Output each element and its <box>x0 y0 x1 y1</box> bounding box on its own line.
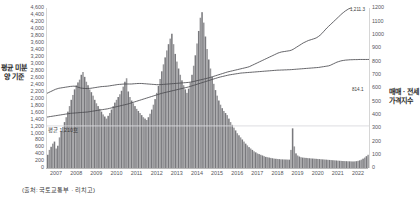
bar <box>305 158 307 168</box>
right-axis-title: 매매 · 전세 가격지수 <box>389 88 420 105</box>
bar <box>60 131 62 168</box>
bar <box>149 114 151 168</box>
bar <box>231 125 233 168</box>
bar <box>275 159 277 168</box>
bar <box>67 112 69 168</box>
bar <box>102 114 104 168</box>
bar <box>112 106 114 168</box>
left-axis-tick: 4,400 <box>31 12 45 17</box>
bar <box>188 89 190 168</box>
x-axis-tick: 2012 <box>151 170 163 177</box>
left-axis-tick: 800 <box>35 137 44 142</box>
bar <box>237 133 239 168</box>
bar <box>309 158 311 168</box>
bar <box>342 161 344 168</box>
bar <box>86 82 88 168</box>
bar <box>183 85 185 168</box>
right-axis-tick: 300 <box>372 125 381 130</box>
bar <box>243 142 245 168</box>
left-axis-tick: 4,200 <box>31 19 45 24</box>
bar <box>200 18 202 168</box>
left-axis-tick: 2,000 <box>31 96 45 101</box>
bar <box>168 44 170 168</box>
bar <box>124 82 126 168</box>
bar <box>97 106 99 168</box>
right-axis-tick: 100 <box>372 152 381 157</box>
bar <box>89 89 91 168</box>
x-axis-ticks: 2007200820092010201120122013201420152016… <box>46 170 368 182</box>
left-axis-tick: 2,800 <box>31 68 45 73</box>
bar <box>174 54 176 168</box>
right-axis-tick: 800 <box>372 59 381 64</box>
bar <box>367 155 369 168</box>
x-axis-tick: 2008 <box>70 170 82 177</box>
bar <box>255 152 257 168</box>
bar <box>225 113 227 168</box>
bar <box>317 159 319 168</box>
left-axis-tick: 200 <box>35 158 44 163</box>
bar <box>233 128 235 168</box>
left-axis-tick: 3,400 <box>31 47 45 52</box>
left-axis-tick: 2,600 <box>31 75 45 80</box>
left-axis-tick: 600 <box>35 144 44 149</box>
right-axis-tick: 600 <box>372 85 381 90</box>
bar <box>330 160 332 168</box>
bar <box>272 158 274 168</box>
bar <box>122 87 124 168</box>
bar <box>146 120 148 168</box>
bar <box>252 150 254 168</box>
right-axis-tick: 1100 <box>372 19 384 24</box>
right-axis-tick: 900 <box>372 45 381 50</box>
x-axis-tick: 2014 <box>191 170 203 177</box>
x-axis-tick: 2009 <box>90 170 102 177</box>
bar <box>220 105 222 168</box>
bar <box>153 105 155 168</box>
bar <box>210 69 212 168</box>
bar <box>156 93 158 168</box>
bar <box>253 151 255 168</box>
x-axis-tick: 2013 <box>171 170 183 177</box>
right-axis-tick: 500 <box>372 99 381 104</box>
bar <box>158 86 160 168</box>
bar <box>285 160 287 168</box>
bar <box>287 160 289 168</box>
bar <box>337 161 339 168</box>
bar <box>186 93 188 168</box>
x-axis-tick: 2019 <box>292 170 304 177</box>
bar <box>312 159 314 168</box>
bar <box>262 155 264 168</box>
bar <box>324 160 326 168</box>
x-axis-tick: 2022 <box>352 170 364 177</box>
left-axis-tick: 0 <box>41 165 44 170</box>
bar <box>52 144 54 168</box>
bar <box>278 159 280 168</box>
bar <box>250 149 252 168</box>
bar <box>87 85 89 168</box>
bar <box>334 160 336 168</box>
bar <box>54 142 56 168</box>
bar <box>185 89 187 168</box>
bar <box>257 153 259 168</box>
bar <box>164 57 166 168</box>
jeonse-index-endpoint-label: 814.1 <box>352 87 364 92</box>
bar <box>141 115 143 168</box>
bar <box>267 157 269 168</box>
bar <box>366 156 368 168</box>
left-axis-tick: 1,800 <box>31 103 45 108</box>
chart-canvas <box>47 8 369 168</box>
bar <box>314 159 316 168</box>
left-axis-tick: 2,400 <box>31 82 45 87</box>
bar <box>351 161 353 168</box>
bar <box>148 117 150 168</box>
bar <box>134 106 136 168</box>
bar <box>325 160 327 168</box>
bar <box>129 97 131 168</box>
bar <box>263 156 265 168</box>
bar <box>215 90 217 168</box>
left-axis-tick: 1,400 <box>31 117 45 122</box>
bar <box>322 159 324 168</box>
left-axis-tick: 1,200 <box>31 124 45 129</box>
left-axis-tick: 3,200 <box>31 54 45 59</box>
left-axis-tick: 3,000 <box>31 61 45 66</box>
bar <box>359 160 361 168</box>
